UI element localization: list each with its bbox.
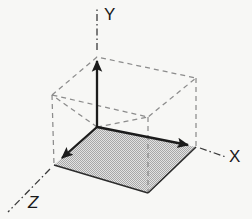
- x-axis-label: X: [229, 148, 240, 165]
- box-top-face-edge: [52, 57, 196, 117]
- z-axis-label: Z: [28, 194, 38, 211]
- shaded-floor-face: [54, 127, 196, 193]
- x-axis-extension: [200, 148, 226, 157]
- y-axis-label: Y: [104, 6, 115, 23]
- coordinate-axes-figure: Y X Z: [0, 0, 252, 219]
- axes-diagram-svg: [0, 0, 252, 219]
- box-edge-vertical-left: [52, 95, 54, 165]
- box-edge-inner-right: [97, 117, 148, 127]
